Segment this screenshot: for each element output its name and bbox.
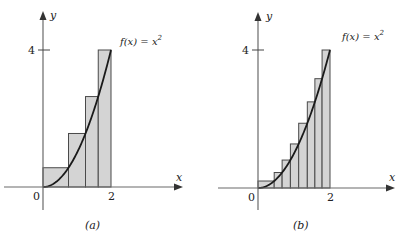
x-tick-label: 2 [108, 190, 115, 203]
y-tick-label: 4 [28, 44, 35, 57]
origin-label: 0 [33, 190, 40, 203]
riemann-rectangle [322, 50, 330, 188]
x-axis-arrow-icon [174, 184, 183, 191]
panel-a: y x 4 0 2 f(x) = x2 (a) [4, 9, 183, 232]
riemann-rectangle [315, 79, 322, 188]
panel-caption: (b) [293, 219, 309, 232]
riemann-rectangle [43, 168, 69, 187]
y-axis-arrow-icon [40, 11, 47, 20]
riemann-sum-figure: y x 4 0 2 f(x) = x2 (a) y x 4 0 2 f(x) =… [0, 0, 398, 237]
y-tick-label: 4 [242, 44, 249, 57]
x-axis-arrow-icon [386, 185, 395, 192]
function-label: f(x) = x2 [341, 29, 385, 42]
y-axis-arrow-icon [255, 12, 262, 21]
riemann-rectangles [43, 50, 111, 187]
riemann-rectangle [282, 160, 290, 188]
x-axis-label: x [176, 171, 183, 184]
riemann-rectangle [98, 50, 111, 187]
y-axis-label: y [49, 9, 57, 22]
riemann-rectangles [258, 50, 330, 188]
y-axis-label: y [265, 10, 273, 23]
panel-caption: (a) [85, 219, 100, 232]
riemann-rectangle [86, 97, 99, 187]
panel-b: y x 4 0 2 f(x) = x2 (b) [218, 10, 396, 232]
function-label: f(x) = x2 [119, 34, 163, 47]
x-tick-label: 2 [327, 191, 334, 204]
origin-label: 0 [248, 191, 255, 204]
x-axis-label: x [389, 171, 396, 184]
